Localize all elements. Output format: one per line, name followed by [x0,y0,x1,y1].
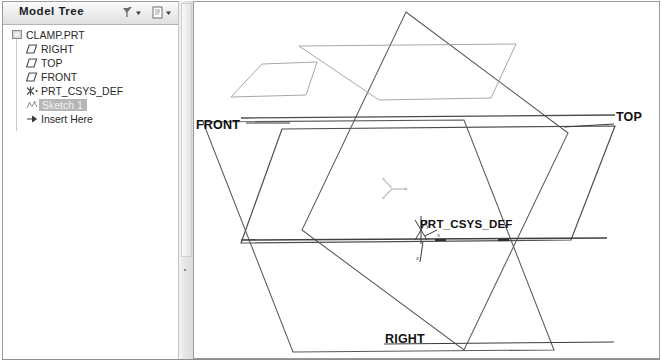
datum-plane-icon [25,57,39,69]
right-datum-plane [302,12,568,350]
tree-item-sketch-1[interactable]: Sketch 1 [3,98,178,112]
tree-item-right[interactable]: RIGHT [3,42,178,56]
panel-splitter-scrollbar[interactable] [178,1,194,359]
csys-label: PRT_CSYS_DEF [420,218,513,230]
insert-arrow-icon [25,113,39,125]
tree-item-top[interactable]: TOP [3,56,178,70]
model-tree-header: Model Tree [3,2,178,25]
left-inner-outline [231,62,317,97]
sketch-icon [25,99,39,111]
tree-item-label: FRONT [39,71,77,83]
datum-plane-icon [25,43,39,55]
tree-item-clamp-prt[interactable]: CLAMP.PRT [3,28,178,42]
tree-item-label: RIGHT [39,43,74,55]
scrollbar-thumb[interactable] [181,3,192,257]
axis-y-tag: y [426,222,429,229]
tree-item-prt-csys-def[interactable]: PRT_CSYS_DEF [3,84,178,98]
datum-plane-icon [25,71,39,83]
tree-item-label: PRT_CSYS_DEF [39,85,123,97]
tree-item-label: TOP [39,57,62,69]
axis-z-tag: z [416,254,419,261]
datum-axis-marker [382,178,407,199]
top-reference-edge [241,115,615,118]
model-tree-panel: Model Tree [2,1,178,359]
tree-item-insert-here[interactable]: Insert Here [3,112,178,126]
tree-item-label: Insert Here [39,113,93,125]
tree-item-label: Sketch 1 [39,99,87,111]
graphics-window[interactable]: FRONT TOP RIGHT PRT_CSYS_DEF x y z [193,1,660,359]
tree-item-front[interactable]: FRONT [3,70,178,84]
model-tree-title: Model Tree [19,5,84,17]
right-inner-outline [299,44,516,100]
csys-icon [25,85,39,97]
axis-x-tag: x [437,231,440,238]
front-plane-label: FRONT [196,118,240,132]
window-bottom-edge [2,359,660,360]
splitter-grip-dot [184,269,186,271]
part-icon [10,29,24,41]
datum-geometry-wireframe [194,2,659,358]
tree-display-icon[interactable] [149,4,175,22]
filter-settings-icon[interactable] [119,4,145,22]
right-plane-label: RIGHT [385,332,425,346]
front-datum-plane [203,120,554,352]
model-tree-body[interactable]: CLAMP.PRT RIGHT TOP [3,25,178,360]
tree-item-label: CLAMP.PRT [24,29,85,41]
top-plane-label: TOP [616,110,642,124]
creo-window: Model Tree [0,0,662,364]
